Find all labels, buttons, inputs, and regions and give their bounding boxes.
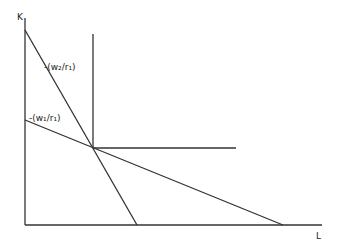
isocost-line-shallow xyxy=(25,120,283,225)
isocost-shallow-label: -(w₁/r₁) xyxy=(29,113,61,123)
isocost-steep-label: -(w₂/r₁) xyxy=(44,62,76,72)
y-axis-label: K xyxy=(17,12,24,22)
x-axis-label: L xyxy=(316,231,321,241)
isoquant-diagram: K L -(w₂/r₁) -(w₁/r₁) xyxy=(0,0,337,245)
